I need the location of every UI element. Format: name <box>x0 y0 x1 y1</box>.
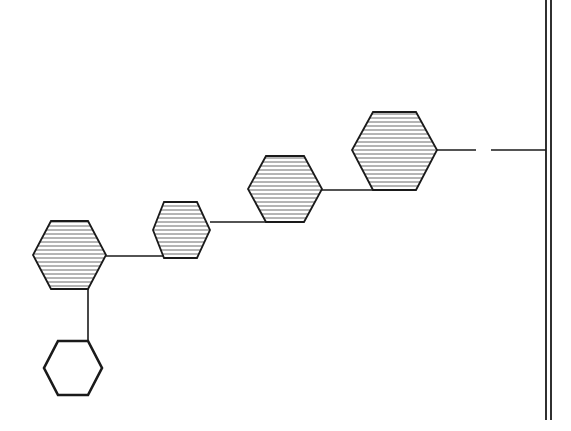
hex-3-hexagon <box>248 156 322 222</box>
hex-5-hexagon <box>44 341 102 395</box>
hexagon-nodes <box>33 112 437 395</box>
hex-2-hexagon <box>153 202 210 258</box>
double-wall-line <box>546 0 551 420</box>
hex-1-hexagon <box>33 221 106 289</box>
diagram-canvas <box>0 0 571 431</box>
hex-4-hexagon <box>352 112 437 190</box>
hexagon-chain-diagram <box>0 0 571 431</box>
